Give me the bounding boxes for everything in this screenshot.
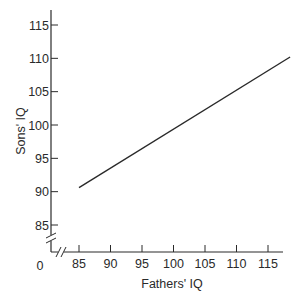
y-tick-label: 95	[35, 152, 49, 166]
series-lines	[79, 57, 290, 188]
y-tick-label: 100	[28, 119, 49, 133]
x-tick-label: 100	[163, 257, 184, 271]
y-axis-label: Sons' IQ	[14, 107, 28, 155]
y-ticks: 859095100105110115	[28, 19, 58, 233]
x-tick-label: 105	[195, 257, 216, 271]
x-tick-label: 90	[104, 257, 118, 271]
y-tick-label: 110	[29, 52, 49, 66]
y-tick-label: 90	[35, 185, 49, 199]
x-tick-label: 110	[227, 257, 247, 271]
y-tick-label: 105	[28, 85, 49, 99]
x-tick-label: 115	[258, 257, 278, 271]
y-tick-label: 85	[35, 219, 49, 233]
x-tick-label: 95	[135, 257, 149, 271]
y-tick-label: 115	[29, 19, 49, 33]
regression-chart: 859095100105110115 859095100105110115 0 …	[0, 0, 301, 294]
x-tick-label: 85	[72, 257, 86, 271]
x-ticks: 859095100105110115	[72, 245, 278, 271]
regression-line	[79, 57, 290, 188]
origin-label: 0	[37, 259, 44, 273]
x-axis-label: Fathers' IQ	[141, 277, 203, 291]
